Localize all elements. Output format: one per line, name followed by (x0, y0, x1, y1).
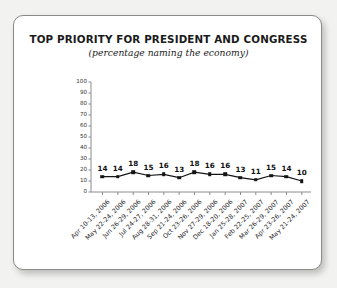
chart-screenshot: TOP PRIORITY FOR PRESIDENT AND CONGRESS … (0, 0, 337, 288)
data-point-marker (193, 170, 197, 174)
data-value-label: 13 (235, 165, 245, 174)
y-tick-label: 0 (65, 189, 87, 195)
data-value-label: 11 (251, 167, 261, 176)
data-point-marker (300, 179, 304, 183)
y-tick-label: 30 (65, 156, 87, 162)
y-tick-label: 10 (65, 178, 87, 184)
data-point-marker (285, 175, 289, 179)
chart-card: TOP PRIORITY FOR PRESIDENT AND CONGRESS … (13, 15, 322, 270)
y-tick-label: 100 (65, 79, 87, 85)
y-tick-label: 90 (65, 90, 87, 96)
data-point-marker (223, 173, 227, 177)
data-point-marker (269, 174, 273, 178)
y-tick-label: 20 (65, 167, 87, 173)
data-value-label: 10 (297, 168, 307, 177)
data-point-marker (101, 175, 105, 179)
data-point-marker (116, 175, 120, 179)
y-tick-label: 70 (65, 112, 87, 118)
data-point-marker (162, 173, 166, 177)
data-point-marker (239, 176, 243, 180)
data-value-label: 15 (143, 163, 153, 172)
data-value-label: 14 (113, 164, 123, 173)
y-tick-label: 50 (65, 134, 87, 140)
data-value-label: 16 (205, 161, 215, 170)
plot-area: 0102030405060708090100 14141815161318161… (14, 16, 323, 271)
data-value-label: 15 (266, 163, 276, 172)
y-tick-label: 40 (65, 145, 87, 151)
data-point-marker (254, 178, 258, 182)
data-value-label: 18 (128, 159, 138, 168)
data-value-label: 14 (281, 164, 291, 173)
data-value-label: 14 (97, 164, 107, 173)
data-point-marker (177, 176, 181, 180)
data-value-label: 16 (159, 161, 169, 170)
data-value-label: 18 (189, 159, 199, 168)
data-point-marker (131, 170, 135, 174)
data-point-marker (147, 174, 151, 178)
data-value-label: 13 (174, 165, 184, 174)
y-tick-label: 60 (65, 123, 87, 129)
data-point-marker (208, 173, 212, 177)
data-value-label: 16 (220, 161, 230, 170)
y-tick-label: 80 (65, 101, 87, 107)
